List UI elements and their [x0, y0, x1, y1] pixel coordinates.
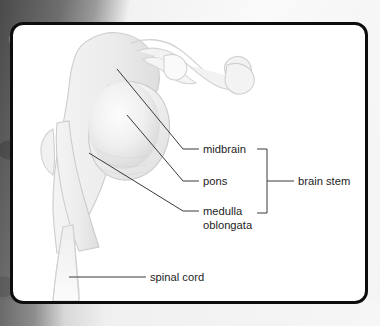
label-midbrain: midbrain	[203, 143, 246, 155]
bracket-bottom-arm	[257, 207, 267, 213]
brain-stem-diagram: midbrain pons medulla oblongata brain st…	[13, 25, 365, 301]
brain-stem-bracket	[257, 149, 294, 213]
label-brain-stem: brain stem	[298, 175, 350, 187]
cerebellum-highlight	[88, 81, 160, 169]
brain-illustration	[41, 33, 254, 301]
label-pons: pons	[203, 175, 228, 187]
temporal-lobe-shape	[41, 129, 55, 175]
pineal-loop-shape	[164, 54, 187, 80]
label-medulla-oblongata-second-line: oblongata	[203, 219, 253, 231]
label-medulla: medulla	[203, 205, 243, 217]
figure-frame: midbrain pons medulla oblongata brain st…	[10, 22, 368, 304]
label-spinal-cord: spinal cord	[150, 271, 204, 283]
bracket-top-arm	[257, 149, 267, 156]
